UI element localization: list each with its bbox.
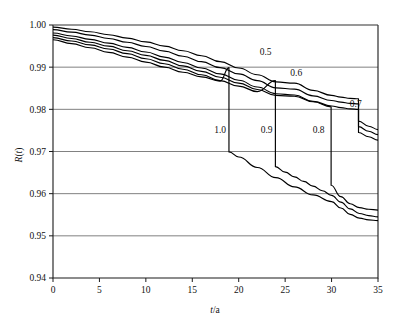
y-tick-label: 0.99	[29, 63, 46, 73]
y-tick-label: 0.96	[29, 189, 46, 199]
x-tick-label: 15	[188, 285, 198, 295]
chart-background	[0, 0, 404, 333]
y-tick-label: 0.98	[29, 105, 46, 115]
x-tick-label: 0	[51, 285, 56, 295]
curve-label-0.7: 0.7	[350, 99, 362, 109]
curve-label-0.9: 0.9	[261, 125, 273, 135]
reliability-chart: 0.940.950.960.970.980.991.00 05101520253…	[0, 0, 404, 333]
svg-text:t/a: t/a	[210, 305, 220, 315]
y-tick-label: 0.94	[29, 273, 46, 283]
curve-label-1.0: 1.0	[214, 125, 226, 135]
x-tick-label: 25	[280, 285, 290, 295]
x-tick-label: 35	[373, 285, 383, 295]
y-axis-title: R(t)	[14, 148, 25, 164]
x-tick-label: 20	[234, 285, 244, 295]
y-tick-label: 1.00	[29, 20, 46, 30]
svg-text:R(t): R(t)	[14, 148, 25, 164]
x-axis-title: t/a	[210, 305, 220, 315]
curve-label-0.6: 0.6	[290, 68, 302, 78]
x-tick-label: 10	[141, 285, 151, 295]
curve-label-0.8: 0.8	[313, 125, 325, 135]
y-tick-label: 0.97	[29, 147, 46, 157]
y-tick-label: 0.95	[29, 231, 46, 241]
curve-label-0.5: 0.5	[260, 47, 272, 57]
x-tick-label: 5	[97, 285, 102, 295]
x-tick-label: 30	[327, 285, 337, 295]
